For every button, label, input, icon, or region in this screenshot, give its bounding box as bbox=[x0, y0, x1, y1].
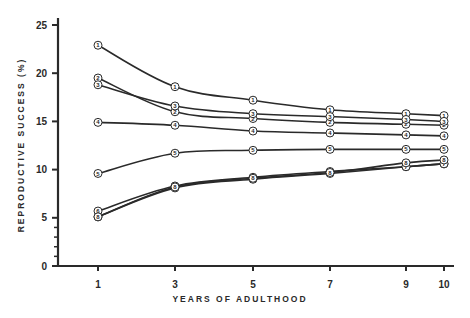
data-point-marker: 8 bbox=[440, 156, 448, 164]
data-point-marker: 5 bbox=[440, 145, 448, 153]
x-tick-label: 1 bbox=[95, 279, 101, 290]
y-tick-label: 5 bbox=[41, 212, 47, 223]
data-point-marker: 1 bbox=[171, 83, 179, 91]
data-point-marker: 4 bbox=[402, 131, 410, 139]
y-axis-title: REPRODUCTIVE SUCCESS (%) bbox=[16, 58, 26, 233]
data-point-marker: 8 bbox=[402, 159, 410, 167]
x-tick-label: 5 bbox=[250, 279, 256, 290]
x-tick-label: 7 bbox=[327, 279, 333, 290]
series-line-5 bbox=[98, 149, 444, 173]
x-tick-label: 9 bbox=[403, 279, 409, 290]
data-point-marker: 3 bbox=[402, 115, 410, 123]
y-tick-label: 25 bbox=[36, 20, 48, 31]
y-tick-label: 0 bbox=[41, 261, 47, 272]
data-point-marker: 4 bbox=[440, 132, 448, 140]
data-point-marker: 3 bbox=[440, 117, 448, 125]
y-axis: 0510152025 bbox=[36, 18, 58, 272]
x-tick-label: 3 bbox=[172, 279, 178, 290]
data-point-marker: 5 bbox=[171, 149, 179, 157]
line-chart: 0510152025 1357910 111111222222333333444… bbox=[0, 0, 470, 318]
data-point-marker: 3 bbox=[326, 113, 334, 121]
x-tick-label: 10 bbox=[438, 279, 450, 290]
data-point-marker: 5 bbox=[94, 169, 102, 177]
data-point-marker: 4 bbox=[171, 121, 179, 129]
series-line-7 bbox=[98, 164, 444, 217]
data-point-marker: 3 bbox=[94, 81, 102, 89]
x-axis: 1357910 bbox=[57, 266, 454, 290]
x-axis-title: YEARS OF ADULTHOOD bbox=[172, 294, 307, 304]
data-point-marker: 1 bbox=[94, 41, 102, 49]
data-point-marker: 4 bbox=[326, 129, 334, 137]
data-point-marker: 8 bbox=[171, 183, 179, 191]
y-tick-label: 15 bbox=[36, 116, 48, 127]
series-lines bbox=[98, 45, 444, 217]
data-point-marker: 8 bbox=[326, 168, 334, 176]
y-tick-label: 10 bbox=[36, 164, 48, 175]
data-point-marker: 1 bbox=[249, 96, 257, 104]
data-point-marker: 3 bbox=[249, 110, 257, 118]
data-point-marker: 8 bbox=[249, 174, 257, 182]
data-point-marker: 8 bbox=[94, 213, 102, 221]
y-tick-label: 20 bbox=[36, 68, 48, 79]
data-point-marker: 4 bbox=[249, 127, 257, 135]
series-line-1 bbox=[98, 45, 444, 115]
data-point-marker: 5 bbox=[249, 146, 257, 154]
data-point-marker: 5 bbox=[402, 145, 410, 153]
data-point-marker: 3 bbox=[171, 102, 179, 110]
data-point-marker: 5 bbox=[326, 145, 334, 153]
series-line-6 bbox=[98, 164, 444, 211]
data-point-marker: 4 bbox=[94, 118, 102, 126]
